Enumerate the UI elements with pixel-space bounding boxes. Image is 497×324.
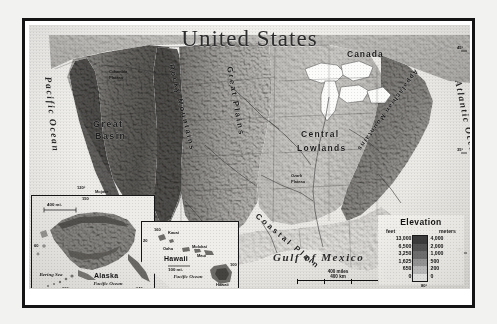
legend-swatch-3: [413, 259, 427, 267]
legend-feet-1: 6,500: [382, 243, 412, 251]
legend-swatch-1: [413, 244, 427, 252]
legend-title: Elevation: [380, 217, 462, 228]
inset-hawaii-pacific-ocean: Pacific Ocean: [168, 274, 208, 280]
legend-swatch-0: [413, 236, 427, 244]
legend-meters-column: 4,000 2,000 1,000 500 200 0: [428, 235, 461, 280]
label-columbia-plateau: Columbia: [109, 69, 128, 74]
alaska-coord-60: 60: [34, 243, 38, 248]
legend-swatch-5: [413, 274, 427, 282]
label-gulf-of-mexico: Gulf of Mexico: [273, 251, 364, 263]
label-great-basin-2: Basin: [95, 131, 127, 141]
inset-alaska: Alaska 400 mi. Bering Sea Pacific Ocean …: [31, 195, 155, 291]
latitude-tick-35: 35°: [457, 147, 463, 152]
legend-swatch-4: [413, 266, 427, 274]
legend-feet-2: 3,250: [382, 250, 412, 258]
frame-bottom-gutter: [29, 288, 470, 302]
hawaii-island-maui: Maui: [197, 253, 206, 258]
legend-meters-3: 500: [431, 258, 461, 266]
elevation-legend: Elevation feet meters 13,000 6,500 3,250…: [378, 215, 464, 285]
legend-swatch-2: [413, 251, 427, 259]
legend-feet-0: 13,000: [382, 235, 412, 243]
legend-color-ramp: [412, 235, 428, 282]
map-frame: Canada Great Basin Mojave Desert Columbi…: [22, 18, 475, 308]
legend-meters-5: 0: [431, 273, 461, 281]
hawaii-coord-20: 20: [143, 238, 147, 243]
hawaii-island-molokai: Molokai: [192, 244, 207, 249]
hawaii-island-oahu: Oahu: [163, 246, 173, 251]
label-central-lowlands-2: Lowlands: [297, 143, 347, 153]
legend-meters-2: 1,000: [431, 250, 461, 258]
screenshot-canvas: Canada Great Basin Mojave Desert Columbi…: [0, 0, 497, 324]
label-great-basin: Great: [93, 119, 124, 129]
map-plate: Canada Great Basin Mojave Desert Columbi…: [29, 25, 470, 293]
inset-alaska-scale: 400 mi.: [47, 202, 62, 207]
legend-meters-0: 4,000: [431, 235, 461, 243]
label-pacific-ocean: Pacific Ocean: [43, 76, 61, 153]
alaska-coord-150: 150: [82, 196, 89, 201]
legend-unit-meters: meters: [439, 228, 456, 234]
hawaii-island-hawaii: Hawaii: [216, 282, 229, 287]
legend-feet-3: 1,625: [382, 258, 412, 266]
inset-alaska-bering-sea: Bering Sea: [36, 272, 66, 278]
legend-unit-feet: feet: [386, 228, 395, 234]
hawaii-coord-100: 100: [230, 262, 237, 267]
inset-hawaii-scale: 100 mi.: [168, 267, 183, 272]
label-central-lowlands: Central: [301, 129, 339, 139]
legend-feet-4: 650: [382, 265, 412, 273]
label-ozark-plateau-2: Plateau: [291, 179, 306, 184]
legend-meters-1: 2,000: [431, 243, 461, 251]
map-title: United States: [29, 26, 470, 52]
inset-alaska-pacific-ocean: Pacific Ocean: [86, 281, 130, 287]
scale-bar-main: 400 miles 400 km: [297, 269, 379, 284]
label-columbia-plateau-2: Plateau: [109, 75, 124, 80]
hawaii-island-kauai: Kauai: [168, 230, 179, 235]
legend-feet-column: 13,000 6,500 3,250 1,625 650 0: [382, 235, 412, 280]
label-mojave-desert: Mojave: [95, 189, 109, 194]
scale-bar-line: [297, 280, 379, 284]
inset-alaska-label: Alaska: [94, 272, 118, 279]
inset-hawaii-label: Hawaii: [164, 255, 188, 262]
legend-meters-4: 200: [431, 265, 461, 273]
label-ozark-plateau: Ozark: [291, 173, 303, 178]
hawaii-coord-160: 160: [154, 227, 161, 232]
longitude-tick-120: 120°: [77, 185, 85, 190]
legend-feet-5: 0: [382, 273, 412, 281]
